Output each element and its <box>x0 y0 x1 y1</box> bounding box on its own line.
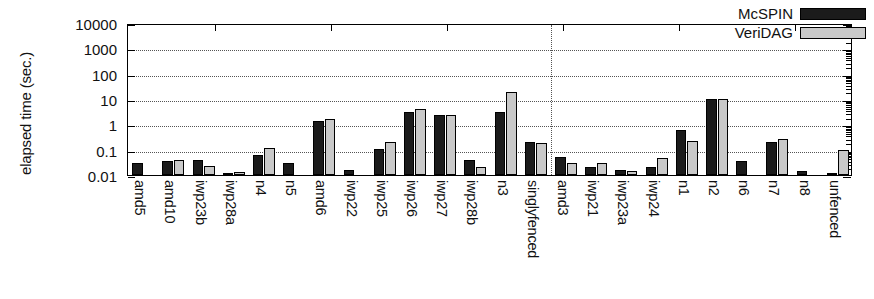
x-tick-label: iwp28a <box>223 180 239 225</box>
bar-veridag <box>778 139 789 175</box>
bar-veridag <box>687 141 698 175</box>
bar-group <box>706 23 728 175</box>
x-tick-label: unfenced <box>827 180 843 238</box>
bar-mcspin <box>525 142 536 175</box>
bar-group <box>193 23 215 175</box>
bar-group <box>736 23 758 175</box>
bar-veridag <box>506 92 517 175</box>
x-tick-label: singlyfenced <box>525 180 541 258</box>
bar-veridag <box>325 119 336 175</box>
bar-group <box>404 23 426 175</box>
y-tick-label: 100 <box>92 66 117 83</box>
bar-group <box>283 23 305 175</box>
bar-veridag <box>718 99 729 175</box>
bar-veridag <box>567 163 578 175</box>
bar-veridag <box>385 142 396 175</box>
black-swatch-icon <box>800 8 866 20</box>
bar-veridag <box>597 163 608 175</box>
bar-group <box>374 23 396 175</box>
bar-group <box>132 23 154 175</box>
bar-group <box>434 23 456 175</box>
bar-veridag <box>446 115 457 175</box>
bar-mcspin <box>676 130 687 175</box>
x-tick-label: n7 <box>766 180 782 196</box>
x-tick-label: amd6 <box>313 180 329 215</box>
bar-mcspin <box>464 160 475 175</box>
bar-mcspin <box>434 115 445 175</box>
bar-veridag <box>476 167 487 175</box>
bar-group <box>525 23 547 175</box>
y-tick-label: 10000 <box>75 16 117 33</box>
bar-mcspin <box>736 161 747 175</box>
legend-label-veridag: VeriDAG <box>735 24 793 41</box>
chart-root: elapsed time (sec.) 1000010001001010.10.… <box>0 0 874 299</box>
bar-mcspin <box>797 171 808 175</box>
bar-mcspin <box>253 155 264 175</box>
y-tick-label: 1000 <box>84 41 117 58</box>
x-tick-label: amd5 <box>132 180 148 215</box>
bar-group <box>495 23 517 175</box>
y-tick-label: 0.01 <box>88 168 117 185</box>
bar-mcspin <box>283 163 294 175</box>
bar-group <box>646 23 668 175</box>
bar-veridag <box>264 148 275 175</box>
x-tick-label: iwp26 <box>404 180 420 217</box>
x-tick-label: n8 <box>797 180 813 196</box>
bar-mcspin <box>706 99 717 175</box>
bar-mcspin <box>223 173 234 175</box>
bar-group <box>766 23 788 175</box>
bar-mcspin <box>495 112 506 175</box>
x-tick-label: iwp21 <box>585 180 601 217</box>
chart-legend: McSPIN VeriDAG <box>735 5 866 43</box>
bar-veridag <box>174 160 185 175</box>
bar-veridag <box>204 166 215 175</box>
bar-veridag <box>657 158 668 175</box>
bar-group <box>253 23 275 175</box>
bar-mcspin <box>193 160 204 175</box>
bar-group <box>344 23 366 175</box>
legend-item-mcspin: McSPIN <box>735 5 866 22</box>
x-tick-label: n4 <box>253 180 269 196</box>
bar-mcspin <box>615 170 626 175</box>
bar-group <box>162 23 184 175</box>
y-tick-label: 10 <box>100 92 117 109</box>
x-tick-label: iwp23b <box>193 180 209 225</box>
bar-mcspin <box>555 157 566 175</box>
bar-mcspin <box>585 167 596 175</box>
bar-veridag <box>415 109 426 175</box>
x-tick-label: iwp23a <box>615 180 631 225</box>
bar-group <box>464 23 486 175</box>
bar-mcspin <box>162 161 173 175</box>
bar-mcspin <box>132 163 143 175</box>
bar-mcspin <box>344 170 355 175</box>
bar-group <box>313 23 335 175</box>
bar-mcspin <box>404 112 415 175</box>
bar-group <box>676 23 698 175</box>
bar-mcspin <box>313 121 324 175</box>
gray-swatch-icon <box>800 27 866 39</box>
bar-veridag <box>234 172 245 175</box>
bar-mcspin <box>827 173 838 175</box>
x-tick-label: amd10 <box>162 180 178 223</box>
bar-group <box>585 23 607 175</box>
x-tick-label: n6 <box>736 180 752 196</box>
x-tick-label: n3 <box>495 180 511 196</box>
y-tick-label: 1 <box>109 117 117 134</box>
x-tick-label: iwp24 <box>646 180 662 217</box>
bar-series-container <box>128 25 851 175</box>
right-major-tick <box>843 177 851 178</box>
bar-mcspin <box>374 149 385 175</box>
legend-label-mcspin: McSPIN <box>738 5 793 22</box>
bar-group <box>827 23 849 175</box>
bar-group <box>797 23 819 175</box>
y-tick-label: 0.1 <box>96 142 117 159</box>
bar-group <box>555 23 577 175</box>
x-tick-label: iwp25 <box>374 180 390 217</box>
legend-item-veridag: VeriDAG <box>735 24 866 41</box>
x-tick-label: iwp22 <box>344 180 360 217</box>
bar-mcspin <box>766 142 777 175</box>
x-tick-label: n1 <box>676 180 692 196</box>
bar-veridag <box>627 171 638 175</box>
x-tick-label: n2 <box>706 180 722 196</box>
y-axis-tick-labels: 1000010001001010.10.01 <box>0 0 122 152</box>
